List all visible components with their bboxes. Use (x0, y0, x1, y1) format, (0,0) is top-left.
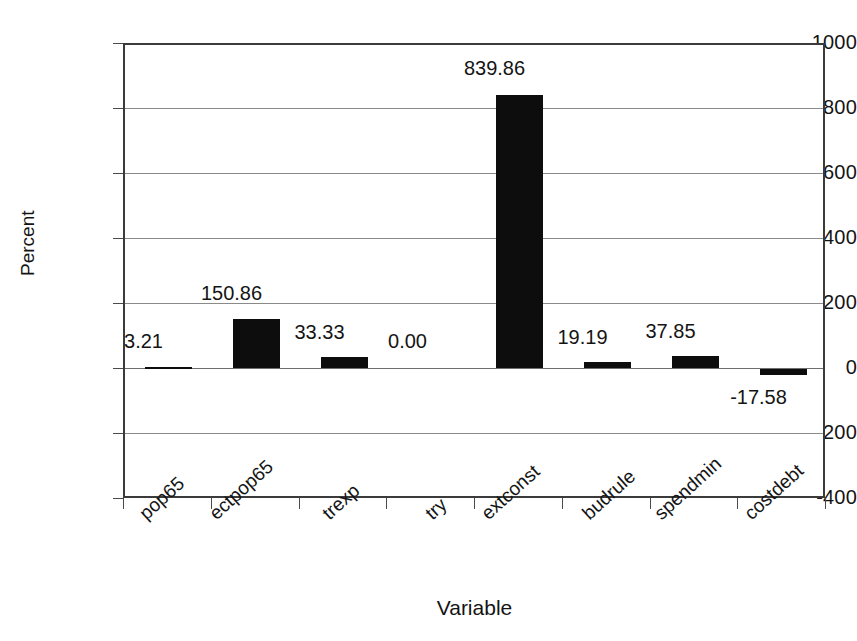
gridline (125, 108, 823, 109)
x-axis-title: Variable (0, 596, 857, 620)
bar-value-label: 839.86 (447, 57, 542, 80)
bar-value-label: 150.86 (184, 282, 279, 305)
bar-value-label: 3.21 (96, 330, 191, 353)
gridline (125, 433, 823, 434)
bar-value-label: 33.33 (272, 321, 367, 344)
x-axis-title-text: Variable (345, 596, 513, 619)
y-axis-title: Percent (17, 236, 39, 276)
x-tick-mark (825, 498, 826, 509)
x-tick-mark (299, 498, 300, 509)
bar-trexp (321, 357, 368, 368)
x-tick-mark (386, 498, 387, 509)
bar-budrule (584, 362, 631, 368)
gridline (125, 173, 823, 174)
bar-value-label: 0.00 (360, 330, 455, 353)
x-tick-mark (562, 498, 563, 509)
x-tick-label-try: try (421, 494, 451, 524)
bar-pop65 (145, 367, 192, 369)
x-tick-mark (737, 498, 738, 509)
bar-spendmin (672, 356, 719, 368)
bar-costdebt (760, 369, 807, 375)
bar-value-label: 19.19 (535, 326, 630, 349)
zero-line (125, 368, 823, 369)
x-tick-mark (474, 498, 475, 509)
bar-value-label: -17.58 (711, 386, 806, 409)
bar-value-label: 37.85 (623, 320, 718, 343)
plot-area (123, 43, 825, 498)
gridline (125, 238, 823, 239)
bar-chart: Percent 1000 800 600 400 200 0 -200 -400… (0, 0, 857, 641)
x-tick-mark (123, 498, 124, 509)
